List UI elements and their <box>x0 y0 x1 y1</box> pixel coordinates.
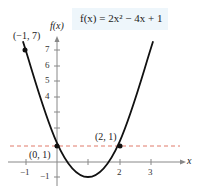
point-2-1 <box>118 144 123 149</box>
x-tick-label: 3 <box>148 167 153 177</box>
y-axis-label: f(x) <box>50 20 64 31</box>
point-label-0-1: (0, 1) <box>29 149 51 160</box>
plot-area <box>0 0 199 190</box>
y-tick-label: −1 <box>40 171 50 181</box>
y-axis-arrow-icon <box>55 36 60 42</box>
y-tick-label: 5 <box>45 75 50 85</box>
x-tick-label: −1 <box>20 167 30 177</box>
point-label-neg1-7: (−1, 7) <box>13 30 40 41</box>
point-neg1-7 <box>23 48 28 53</box>
y-tick-label: 7 <box>45 44 50 54</box>
y-tick-label: 6 <box>45 60 50 70</box>
x-axis-arrow-icon <box>180 160 186 165</box>
point-label-2-1: (2, 1) <box>95 131 117 142</box>
y-tick-label: 4 <box>45 91 50 101</box>
point-0-1 <box>55 144 60 149</box>
x-axis-label: x <box>187 155 191 166</box>
x-tick-label: 2 <box>117 167 122 177</box>
